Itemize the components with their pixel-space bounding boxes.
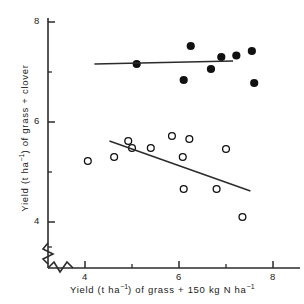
data-point-filled xyxy=(232,51,240,59)
series-open xyxy=(84,133,245,221)
scatter-plot xyxy=(0,0,304,304)
x-tick-label: 4 xyxy=(82,271,87,282)
data-point-open xyxy=(179,154,186,161)
data-point-open xyxy=(111,154,118,161)
x-tick-label: 8 xyxy=(270,271,275,282)
data-point-open xyxy=(186,136,193,143)
data-series xyxy=(84,42,258,221)
data-point-filled xyxy=(187,42,195,50)
x-axis-break-icon xyxy=(48,262,73,272)
axis-ticks xyxy=(48,22,273,268)
data-point-filled xyxy=(180,76,188,84)
data-point-open xyxy=(213,186,220,193)
data-point-open xyxy=(84,158,91,165)
y-axis-label: Yield (t ha−1) of grass + clover xyxy=(18,28,30,248)
x-axis-label: Yield (t ha−1) of grass + 150 kg N ha−1 xyxy=(70,283,255,295)
data-point-filled xyxy=(248,47,256,55)
data-point-open xyxy=(169,133,176,140)
data-point-open xyxy=(180,186,187,193)
regression-lines xyxy=(94,61,250,191)
data-point-filled xyxy=(250,79,258,87)
y-tick-label: 6 xyxy=(34,115,39,126)
data-point-filled xyxy=(217,53,225,61)
data-point-filled xyxy=(207,65,215,73)
data-point-open xyxy=(239,214,246,221)
data-point-open xyxy=(125,138,132,145)
y-tick-label: 8 xyxy=(34,15,39,26)
x-tick-label: 6 xyxy=(176,271,181,282)
axes xyxy=(48,18,300,268)
series-filled xyxy=(133,42,259,87)
regression-line-filled xyxy=(94,61,233,64)
data-point-filled xyxy=(133,60,141,68)
data-point-open xyxy=(147,145,154,152)
y-tick-label: 4 xyxy=(34,215,39,226)
data-point-open xyxy=(223,146,230,153)
figure: Yield (t ha−1) of grass + 150 kg N ha−1 … xyxy=(0,0,304,304)
